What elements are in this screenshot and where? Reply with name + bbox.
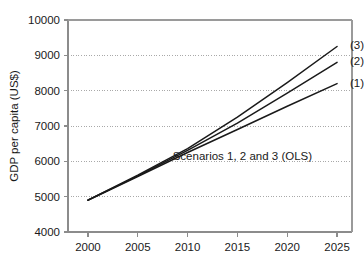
chart-figure: 40005000600070008000900010000 2000200520… [0, 0, 364, 270]
y-tick-label: 9000 [34, 49, 60, 61]
y-tick-label: 8000 [34, 85, 60, 97]
series-end-label-1: (1) [350, 77, 364, 89]
x-tick-labels: 200020052010201520202025 [75, 241, 350, 253]
y-tick-label: 6000 [34, 155, 60, 167]
x-tick-label: 2010 [175, 241, 201, 253]
x-tick-label: 2015 [225, 241, 251, 253]
y-tick-label: 5000 [34, 191, 60, 203]
y-axis-title: GDP per capita (US$) [8, 70, 20, 182]
data-lines [88, 47, 337, 201]
series-end-label-2: (2) [350, 55, 364, 67]
y-tick-label: 7000 [34, 120, 60, 132]
x-tick-label: 2005 [125, 241, 151, 253]
tick-marks [64, 20, 337, 237]
x-tick-label: 2020 [274, 241, 300, 253]
plot-annotations: Scenarios 1, 2 and 3 (OLS) [173, 150, 313, 162]
y-tick-labels: 40005000600070008000900010000 [28, 14, 60, 238]
series-end-label-3: (3) [350, 39, 364, 51]
y-tick-label: 4000 [34, 226, 60, 238]
y-tick-label: 10000 [28, 14, 60, 26]
y-axis-title-group: GDP per capita (US$) [8, 70, 20, 182]
chart-annotation-1: Scenarios 1, 2 and 3 (OLS) [173, 150, 313, 162]
series-end-labels: (1)(2)(3) [350, 39, 364, 88]
grid-lines [68, 55, 352, 196]
line-chart: 40005000600070008000900010000 2000200520… [0, 0, 364, 270]
series-line-3 [88, 47, 337, 201]
x-tick-label: 2000 [75, 241, 101, 253]
series-line-2 [88, 62, 337, 200]
x-tick-label: 2025 [324, 241, 350, 253]
